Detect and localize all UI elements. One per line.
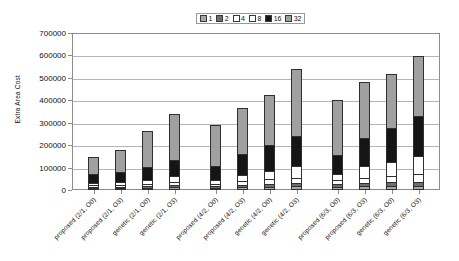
chart-container: 12481632 Extra Area Cost 010000020000030… [0,0,459,261]
x-axis-tick-mark [148,190,149,194]
x-axis-tick-mark [270,190,271,194]
x-axis-tick-mark [121,190,122,194]
x-axis-tick-mark [175,190,176,194]
x-axis: proposed (2/1, O0)proposed (2/1, O3)gene… [0,0,459,261]
x-axis-tick-mark [419,190,420,194]
x-axis-tick-mark [365,190,366,194]
x-axis-tick-mark [243,190,244,194]
x-axis-tick-mark [297,190,298,194]
x-axis-tick-mark [216,190,217,194]
x-axis-tick-mark [94,190,95,194]
x-axis-tick-mark [338,190,339,194]
x-axis-tick-mark [392,190,393,194]
